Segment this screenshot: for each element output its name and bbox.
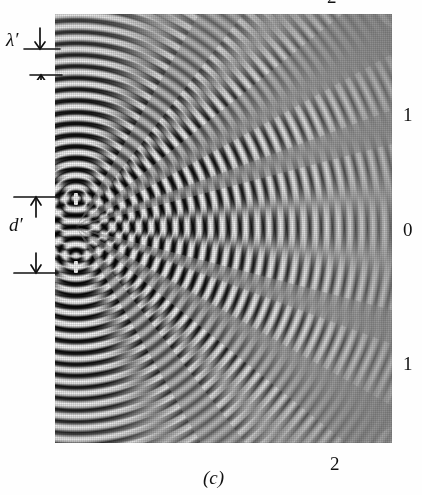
source-dipper-1 [74, 193, 78, 205]
nodal-label-bottom-two: 2 [330, 454, 340, 473]
nodal-label-lower-one: 1 [403, 354, 413, 373]
wavelength-label: λ′ [6, 30, 18, 49]
lambda-arrow-down-head [35, 42, 45, 49]
figure-caption: (c) [203, 468, 224, 487]
source-separation-dimension-marker [12, 190, 60, 280]
nodal-label-center-zero: 0 [403, 220, 413, 239]
ripple-tank-photograph [55, 14, 392, 443]
nodal-label-top-cropped: 2 [327, 0, 337, 6]
source-separation-label: d′ [9, 215, 23, 234]
dprime-arrow-up-head [31, 197, 41, 205]
dprime-arrow-down-head [31, 265, 41, 273]
lambda-arrow-up-head [36, 75, 46, 80]
figure-container: λ′ d′ 2 1 0 1 2 (c) [0, 0, 422, 495]
source-dipper-2 [74, 261, 78, 273]
nodal-label-upper-one: 1 [403, 105, 413, 124]
